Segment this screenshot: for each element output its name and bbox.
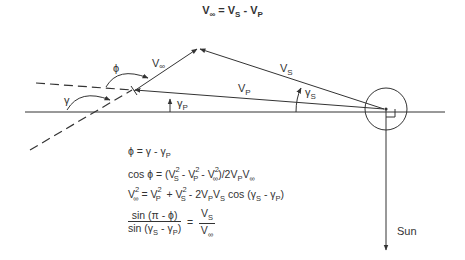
vs-vector <box>200 49 384 109</box>
sine-fraction: sin (π - ϕ) sin (γS - γP) <box>128 210 181 237</box>
gamma-angle-arc <box>67 96 110 110</box>
eq2-text: )/2V <box>218 168 237 180</box>
eq3-text: V <box>213 188 220 200</box>
equations-block: ϕ = γ - γP cos ϕ = (V2S - V2P - V2∞)/2VP… <box>128 146 284 228</box>
v-inf-label: V∞ <box>152 57 165 71</box>
gamma-s-angle-arc <box>296 88 301 112</box>
v-inf-vector <box>134 49 197 91</box>
dashed-outgoing-asymptote <box>30 90 132 150</box>
eq3-text: = V <box>139 188 158 200</box>
den-text: sin (γ <box>128 222 153 234</box>
eq3-text: cos (γ <box>225 188 256 200</box>
eq3-text: + V <box>161 188 183 200</box>
eq2-sub: ∞ <box>250 174 255 183</box>
gamma-s-label: γS <box>305 86 316 101</box>
eq4-equals: = <box>184 216 196 228</box>
eq2-text: V <box>242 168 249 180</box>
phi-label: ϕ <box>113 62 119 74</box>
gamma-p-label: γP <box>177 97 188 112</box>
eq1-sub: P <box>166 151 171 160</box>
equation-sine-rule: sin (π - ϕ) sin (γS - γP) = VS V∞ <box>128 208 284 228</box>
equation-cos-phi: cos ϕ = (V2S - V2P - V2∞)/2VPV∞ <box>128 166 284 186</box>
vp-label: VP <box>238 82 251 97</box>
eq3-text: ) <box>281 188 285 200</box>
ratio-numerator: VS <box>199 208 215 224</box>
phi-angle-arc <box>106 74 148 87</box>
velocity-ratio-fraction: VS V∞ <box>199 208 215 238</box>
equation-phi: ϕ = γ - γP <box>128 146 284 166</box>
ratio-num-text: V <box>201 207 208 219</box>
eq1-text: ϕ = γ - γ <box>128 145 166 157</box>
equation-v-inf-squared: V2∞ = V2P + V2S - 2VPVS cos (γS - γP) <box>128 186 284 206</box>
vp-vector <box>135 90 384 109</box>
ratio-denominator: V∞ <box>199 224 215 239</box>
ratio-num-sub: S <box>208 213 213 222</box>
dashed-incoming-asymptote <box>36 83 132 90</box>
vs-label: VS <box>280 62 293 77</box>
sine-denominator: sin (γS - γP) <box>128 222 181 237</box>
den-text: ) <box>178 222 182 234</box>
eq3-text: - <box>261 188 270 200</box>
eq3-text: - 2V <box>186 188 208 200</box>
den-text: - γ <box>158 222 173 234</box>
sine-numerator: sin (π - ϕ) <box>128 210 181 223</box>
sun-label: Sun <box>397 225 417 237</box>
ratio-den-sub: ∞ <box>208 230 213 239</box>
right-angle-mark <box>386 109 395 117</box>
eq2-text: cos ϕ = (V <box>128 168 176 180</box>
gamma-label: γ <box>64 94 70 106</box>
ratio-den-text: V <box>201 224 208 236</box>
